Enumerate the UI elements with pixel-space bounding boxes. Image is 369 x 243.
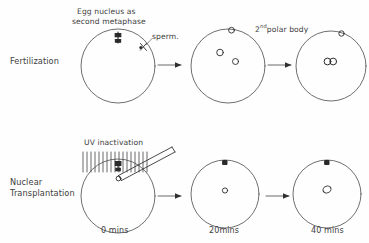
pronuclei-stage-2 [217,49,239,64]
annotation-sperm: sperm. [152,33,179,42]
fused-pronuclei [324,58,337,65]
annotation-uv-inactivation: UV inactivation [84,139,143,148]
polar-body-main: polar body [267,24,309,33]
egg-nucleus-spindle-marker [115,32,121,43]
diagram-vector-layer [0,0,369,243]
diagram-canvas: Fertilization Egg nucleus as second meta… [0,0,369,243]
annotation-egg-nucleus-line2: second metaphase [72,18,146,27]
transplantation-stage-2-top-marker [223,161,227,165]
annotation-egg-nucleus-line1: Egg nucleus as [77,8,136,17]
time-label-0mins: 0 mins [101,226,129,235]
irradiated-chromosome-marker [115,162,121,172]
annotation-second-polar-body: 2ndpolar body [245,14,308,43]
polar-body-superscript: nd [260,23,267,29]
second-polar-body-stage-2 [229,27,235,33]
time-label-20mins: 20mins [209,226,239,235]
transplanted-nucleus-small [222,188,227,193]
row-label-nuclear-transplantation-line2: Transplantation [10,189,75,199]
sperm-entry-marker [139,43,146,50]
transplantation-stage-3-egg [293,160,361,228]
transplanted-nucleus-enlarged [322,185,332,194]
row-label-fertilization: Fertilization [10,57,59,67]
row-label-nuclear-transplantation-line1: Nuclear [10,178,42,188]
transplantation-stage-2-egg [191,160,259,228]
time-label-40mins: 40 mins [311,226,344,235]
transplantation-stage-3-top-marker [325,161,329,165]
